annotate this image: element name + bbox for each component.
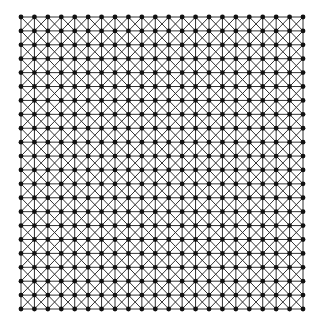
- graph-node: [59, 237, 64, 242]
- graph-node: [220, 223, 225, 228]
- graph-node: [247, 56, 252, 61]
- graph-node: [19, 15, 24, 20]
- graph-node: [193, 265, 198, 270]
- graph-node: [233, 181, 238, 186]
- graph-node: [301, 126, 306, 131]
- graph-node: [59, 307, 64, 312]
- graph-node: [86, 168, 91, 173]
- graph-node: [113, 126, 118, 131]
- graph-node: [193, 126, 198, 131]
- graph-node: [287, 140, 292, 145]
- graph-node: [113, 265, 118, 270]
- graph-node: [207, 140, 212, 145]
- graph-node: [32, 70, 37, 75]
- graph-node: [287, 307, 292, 312]
- graph-node: [220, 307, 225, 312]
- graph-node: [139, 112, 144, 117]
- graph-node: [233, 307, 238, 312]
- grid-graph-diagram: [0, 0, 326, 327]
- graph-node: [193, 98, 198, 103]
- graph-node: [260, 112, 265, 117]
- graph-node: [287, 293, 292, 298]
- graph-node: [274, 181, 279, 186]
- graph-node: [287, 56, 292, 61]
- graph-node: [113, 98, 118, 103]
- graph-node: [274, 237, 279, 242]
- graph-node: [301, 195, 306, 200]
- graph-node: [72, 29, 77, 34]
- graph-node: [19, 140, 24, 145]
- graph-node: [166, 140, 171, 145]
- graph-node: [247, 195, 252, 200]
- graph-node: [260, 70, 265, 75]
- graph-node: [260, 42, 265, 47]
- graph-node: [247, 42, 252, 47]
- graph-node: [139, 84, 144, 89]
- graph-node: [139, 56, 144, 61]
- graph-node: [220, 209, 225, 214]
- graph-node: [220, 237, 225, 242]
- graph-node: [99, 265, 104, 270]
- graph-node: [99, 140, 104, 145]
- graph-node: [193, 307, 198, 312]
- graph-node: [59, 154, 64, 159]
- graph-node: [72, 181, 77, 186]
- graph-node: [287, 265, 292, 270]
- graph-node: [166, 293, 171, 298]
- graph-node: [32, 84, 37, 89]
- graph-node: [220, 42, 225, 47]
- graph-node: [274, 15, 279, 20]
- graph-node: [139, 181, 144, 186]
- graph-node: [153, 84, 158, 89]
- graph-node: [126, 154, 131, 159]
- graph-node: [247, 29, 252, 34]
- graph-node: [207, 307, 212, 312]
- graph-node: [274, 251, 279, 256]
- graph-node: [72, 84, 77, 89]
- graph-node: [233, 237, 238, 242]
- graph-node: [59, 84, 64, 89]
- graph-node: [86, 307, 91, 312]
- graph-node: [32, 112, 37, 117]
- graph-node: [113, 279, 118, 284]
- graph-node: [99, 223, 104, 228]
- graph-node: [166, 84, 171, 89]
- graph-node: [72, 195, 77, 200]
- graph-node: [113, 251, 118, 256]
- graph-node: [260, 56, 265, 61]
- graph-node: [19, 237, 24, 242]
- graph-node: [301, 70, 306, 75]
- graph-node: [220, 98, 225, 103]
- graph-node: [59, 126, 64, 131]
- graph-node: [19, 56, 24, 61]
- graph-node: [260, 209, 265, 214]
- graph-node: [153, 126, 158, 131]
- graph-node: [86, 293, 91, 298]
- graph-node: [287, 98, 292, 103]
- graph-node: [99, 279, 104, 284]
- graph-node: [19, 168, 24, 173]
- graph-node: [220, 168, 225, 173]
- graph-node: [113, 140, 118, 145]
- graph-node: [86, 251, 91, 256]
- graph-node: [301, 181, 306, 186]
- graph-node: [139, 140, 144, 145]
- graph-node: [139, 42, 144, 47]
- graph-node: [153, 140, 158, 145]
- graph-node: [59, 15, 64, 20]
- graph-node: [180, 307, 185, 312]
- graph-node: [233, 84, 238, 89]
- graph-node: [99, 70, 104, 75]
- graph-node: [207, 223, 212, 228]
- graph-node: [233, 56, 238, 61]
- graph-node: [274, 126, 279, 131]
- graph-node: [193, 154, 198, 159]
- graph-node: [45, 251, 50, 256]
- graph-node: [274, 84, 279, 89]
- graph-node: [193, 29, 198, 34]
- graph-node: [59, 195, 64, 200]
- graph-node: [166, 98, 171, 103]
- graph-node: [139, 15, 144, 20]
- graph-node: [32, 56, 37, 61]
- graph-node: [166, 126, 171, 131]
